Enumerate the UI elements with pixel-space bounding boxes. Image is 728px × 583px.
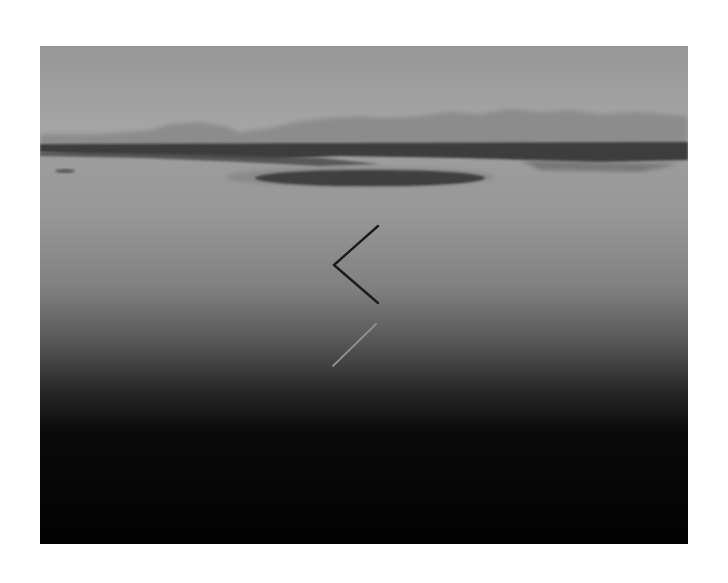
landscape-photo	[40, 46, 688, 544]
island-halo	[225, 167, 495, 187]
photo-canvas	[40, 46, 688, 544]
small-patch	[55, 169, 75, 173]
water	[40, 144, 688, 544]
